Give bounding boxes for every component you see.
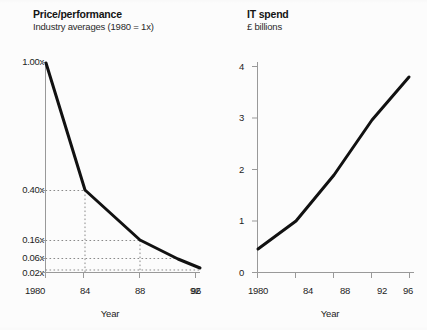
right-axes-group	[252, 62, 414, 278]
data-line-it-spend	[258, 77, 409, 249]
left-axes-group	[41, 62, 200, 278]
plot-vector-layer	[0, 0, 427, 330]
data-line-price-performance	[46, 63, 200, 268]
figure-canvas: Price/performance Industry averages (198…	[0, 0, 427, 330]
